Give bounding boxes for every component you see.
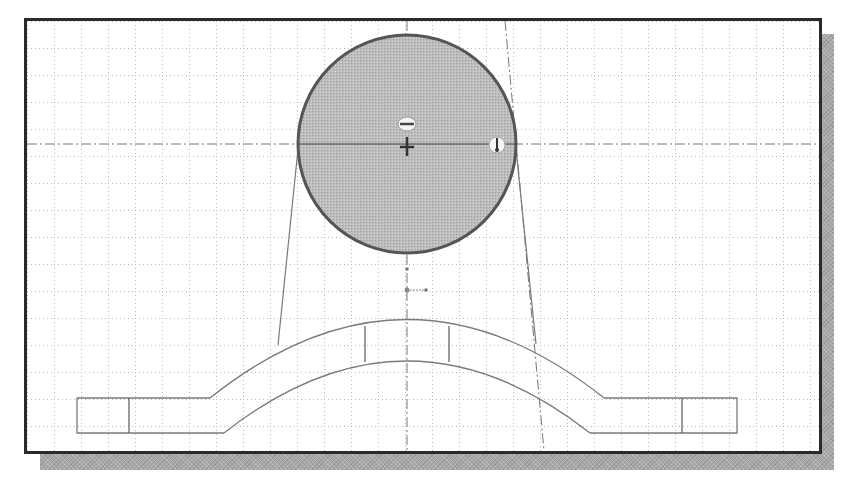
sketch-canvas[interactable]: [27, 21, 819, 451]
sketch-graphics-area[interactable]: [24, 18, 822, 454]
radius-drag-handle[interactable]: [489, 137, 505, 153]
screenshot-stage: [0, 0, 846, 484]
